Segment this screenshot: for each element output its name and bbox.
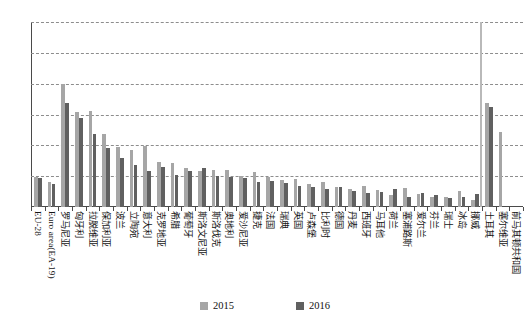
bar-2016 (462, 197, 465, 207)
bar-group (362, 22, 369, 207)
bar-group (116, 22, 123, 207)
bar-2015 (485, 103, 488, 207)
bar-group (157, 22, 164, 207)
bar-group (130, 22, 137, 207)
bar-2015 (471, 200, 474, 207)
bar-2016 (202, 168, 205, 207)
bar-2015 (61, 84, 64, 207)
bar-2016 (407, 197, 410, 207)
bar-2015 (157, 162, 160, 207)
bar-group (430, 22, 437, 207)
bar-2015 (389, 195, 392, 207)
x-tick-label: 爱尔兰 (415, 211, 424, 238)
bar-2015 (403, 188, 406, 207)
x-tick-label: 奥地利 (224, 211, 233, 238)
bar-group (321, 22, 328, 207)
x-tick-label: 意大利 (142, 211, 151, 238)
legend-item[interactable]: 2016 (296, 301, 330, 312)
bar-group (171, 22, 178, 207)
bar-2016 (352, 191, 355, 207)
bar-group (198, 22, 205, 207)
bar-2016 (257, 182, 260, 207)
bar-2015 (376, 190, 379, 207)
x-tick-label: 捷克 (251, 211, 260, 229)
legend-swatch-icon (296, 302, 304, 310)
x-tick-label: 拉脱维亚 (87, 211, 96, 247)
bar-2015 (239, 176, 242, 207)
x-tick-label: 匈牙利 (74, 211, 83, 238)
bar-group (444, 22, 451, 207)
bar-group (61, 22, 68, 207)
x-tick-label: 波兰 (115, 211, 124, 229)
bar-2015 (48, 182, 51, 207)
x-tick-label: 斯洛文尼亚 (197, 211, 206, 256)
bar-2015 (212, 170, 215, 207)
bar-2016 (65, 103, 68, 207)
bar-2015 (89, 111, 92, 207)
x-tick-label: 希腊 (169, 211, 178, 229)
x-tick-label: 荷兰 (388, 211, 397, 229)
bar-group (102, 22, 109, 207)
bar-2016 (270, 181, 273, 207)
x-tick-label: 罗马尼亚 (60, 211, 69, 247)
bar-2016 (229, 177, 232, 207)
bar-group (512, 22, 519, 207)
bar-group (499, 22, 506, 207)
bar-2015 (321, 182, 324, 207)
bar-2015 (335, 187, 338, 207)
x-tick-label: 丹麦 (347, 211, 356, 229)
x-tick-label: 克罗地亚 (156, 211, 165, 247)
bar-2016 (366, 193, 369, 207)
group-separator (480, 22, 482, 207)
bar-2016 (475, 194, 478, 207)
x-tick-label: 比利时 (320, 211, 329, 238)
bar-2016 (311, 187, 314, 207)
bar-group (143, 22, 150, 207)
x-tick-label: Euro area(EA-19) (46, 211, 55, 279)
bar-2016 (448, 198, 451, 207)
bar-2015 (225, 170, 228, 207)
x-tick-label: 瑞士 (443, 211, 452, 229)
bar-2015 (294, 179, 297, 207)
x-tick-label: 西班牙 (361, 211, 370, 238)
x-tick-label: 保加利亚 (101, 211, 110, 247)
bar-2016 (106, 148, 109, 207)
bar-group (485, 22, 492, 207)
bar-2015 (348, 189, 351, 208)
bar-2015 (499, 132, 502, 207)
bar-group (403, 22, 410, 207)
bar-group (225, 22, 232, 207)
legend-label: 2016 (309, 301, 330, 312)
bar-group (335, 22, 342, 207)
bar-2016 (284, 183, 287, 207)
legend-label: 2015 (213, 301, 234, 312)
x-tick-label: 马耳他 (374, 211, 383, 238)
bar-2015 (458, 191, 461, 207)
bar-2015 (362, 186, 365, 207)
x-axis-labels: EU-28Euro area(EA-19)罗马尼亚匈牙利拉脱维亚保加利亚波兰立陶… (31, 211, 523, 299)
bar-2016 (489, 107, 492, 207)
bar-2016 (298, 186, 301, 207)
bar-group (75, 22, 82, 207)
bar-group (458, 22, 465, 207)
bar-2015 (102, 134, 105, 207)
bar-group (266, 22, 273, 207)
x-tick-label: 冰岛 (456, 211, 465, 229)
bar-2015 (444, 197, 447, 207)
x-tick-label: 土耳其 (484, 211, 493, 238)
legend-item[interactable]: 2015 (200, 301, 234, 312)
bar-2016 (175, 175, 178, 207)
bar-2015 (34, 177, 37, 207)
x-tick-label: 葡萄牙 (183, 211, 192, 238)
bar-group (348, 22, 355, 207)
bar-2015 (417, 194, 420, 207)
bar-group (280, 22, 287, 207)
bar-2016 (339, 187, 342, 207)
x-tick-label: 卢森堡 (306, 211, 315, 238)
bar-2016 (380, 192, 383, 207)
bar-2015 (171, 163, 174, 207)
bar-group (48, 22, 55, 207)
bar-group (389, 22, 396, 207)
bar-chart: 051015202530 EU-28Euro area(EA-19)罗马尼亚匈牙… (0, 0, 530, 326)
bar-group (34, 22, 41, 207)
